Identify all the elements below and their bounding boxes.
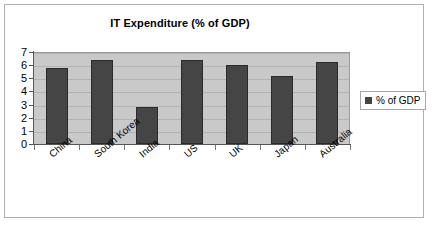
y-axis-tick-label: 3 <box>21 99 27 110</box>
legend-color-swatch <box>365 97 372 104</box>
y-axis-tick-labels: 76543210 <box>13 45 34 151</box>
chart-legend: % of GDP <box>360 91 426 110</box>
x-axis-tick-mark <box>124 145 125 150</box>
bar <box>181 60 203 144</box>
bar <box>316 62 338 144</box>
y-axis-tick-label: 2 <box>21 112 27 123</box>
y-axis-tick-label: 6 <box>21 60 27 71</box>
y-axis-tick-label: 4 <box>21 86 27 97</box>
bar <box>271 76 293 144</box>
chart-title: IT Expenditure (% of GDP) <box>5 17 355 29</box>
y-axis-tick-label: 0 <box>21 139 27 150</box>
bar <box>46 68 68 144</box>
x-axis-tick-mark <box>350 145 351 150</box>
x-axis-tick-mark <box>79 145 80 150</box>
x-axis-tick-mark <box>260 145 261 150</box>
legend-label: % of GDP <box>376 95 420 106</box>
x-axis-tick-mark <box>169 145 170 150</box>
x-axis-tick-mark <box>305 145 306 150</box>
y-axis-tick-label: 7 <box>21 47 27 58</box>
bar-series <box>34 53 349 144</box>
x-axis-tick-mark <box>215 145 216 150</box>
bar <box>91 60 113 144</box>
x-axis-category-labels: ChinaSouth KoreaIndiaUSUKJapanAustralia <box>34 151 350 213</box>
chart-frame: IT Expenditure (% of GDP) 76543210 China… <box>4 4 424 218</box>
bar <box>226 65 248 144</box>
y-axis-tick-label: 1 <box>21 125 27 136</box>
y-axis-tick-label: 5 <box>21 73 27 84</box>
x-axis-tick-mark <box>34 145 35 150</box>
plot-area <box>34 52 350 144</box>
